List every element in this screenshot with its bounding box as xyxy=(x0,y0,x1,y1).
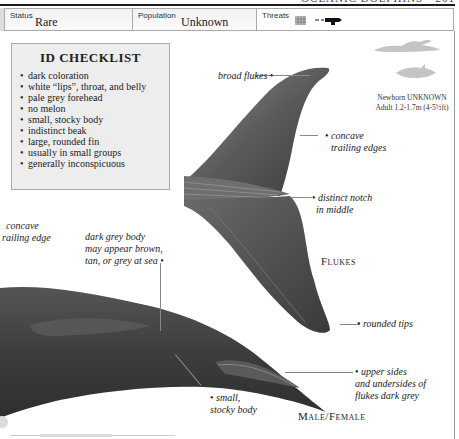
adult-size: Adult 1.2-1.7m (4-5½ft) xyxy=(368,103,456,113)
population-label: Population xyxy=(138,11,176,20)
leader-line xyxy=(285,372,353,373)
id-checklist: ID CHECKLIST dark coloration white “lips… xyxy=(11,43,170,190)
checklist-items: dark coloration white “lips”, throat, an… xyxy=(20,70,161,169)
status-cell: Status Rare xyxy=(5,9,133,30)
newborn-size: Newborn UNKNOWN xyxy=(368,93,456,103)
label-rounded-tips: • rounded tips xyxy=(357,318,413,330)
harpoon-icon xyxy=(315,16,343,26)
label-upper-sides: • upper sides and undersides of flukes d… xyxy=(355,366,426,402)
checklist-item: usually in small groups xyxy=(20,147,161,158)
checklist-item: small, stocky body xyxy=(20,114,161,125)
net-icon xyxy=(295,16,306,25)
status-bar: Status Rare Population Unknown Threats xyxy=(4,8,454,31)
bottom-box-shade xyxy=(40,434,112,437)
label-concave-trailing-edges: • concave trailing edges xyxy=(325,130,386,154)
label-broad-flukes: broad flukes • xyxy=(218,70,273,82)
population-cell: Population Unknown xyxy=(133,9,257,30)
checklist-item: pale grey forehead xyxy=(20,92,161,103)
threats-cell: Threats xyxy=(257,9,453,30)
threats-label: Threats xyxy=(262,11,289,20)
label-distinct-notch: • distinct notch in middle xyxy=(312,192,372,216)
checklist-item: generally inconspicuous xyxy=(20,158,161,169)
status-label: Status xyxy=(10,11,33,20)
checklist-item: large, rounded fin xyxy=(20,136,161,147)
dolphin-body-illustration xyxy=(0,270,330,435)
header-rule xyxy=(0,4,455,6)
size-info: Newborn UNKNOWN Adult 1.2-1.7m (4-5½ft) xyxy=(368,93,456,113)
leader-line xyxy=(290,197,312,198)
status-value: Rare xyxy=(35,15,58,30)
checklist-item: white “lips”, throat, and belly xyxy=(20,81,161,92)
caption-male-female: Male/Female xyxy=(298,410,366,422)
leader-line xyxy=(160,263,161,331)
caption-flukes: Flukes xyxy=(321,255,356,267)
population-value: Unknown xyxy=(181,15,228,30)
dolphin-silhouette-icon xyxy=(395,63,437,81)
checklist-item: dark coloration xyxy=(20,70,161,81)
human-silhouette-icon xyxy=(372,36,442,58)
leader-line xyxy=(300,135,318,136)
checklist-item: indistinct beak xyxy=(20,125,161,136)
label-concave-trailing-edge-left: concave railing edge xyxy=(4,220,51,244)
checklist-item: no melon xyxy=(20,103,161,114)
checklist-title: ID CHECKLIST xyxy=(20,50,161,66)
label-small-stocky-body: • small, stocky body xyxy=(210,392,257,416)
label-dark-grey-body: dark grey body may appear brown, tan, or… xyxy=(85,231,164,267)
